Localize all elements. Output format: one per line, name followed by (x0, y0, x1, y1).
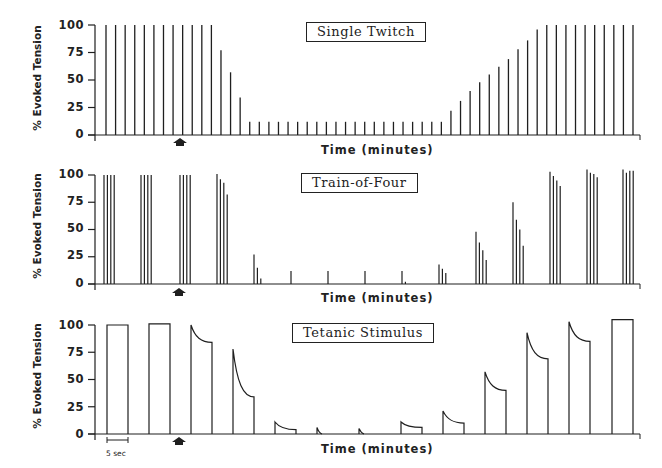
panel-title: Tetanic Stimulus (292, 323, 434, 343)
panel-title: Train-of-Four (301, 173, 418, 193)
x-axis-label: Time (minutes) (321, 442, 434, 456)
x-axis-label: Time (minutes) (321, 291, 434, 305)
drug-administration-arrow-icon (172, 288, 186, 296)
x-axis-label: Time (minutes) (321, 143, 434, 157)
tetanus-trace (612, 320, 633, 434)
tetanus-trace (485, 372, 506, 434)
tetanus-trace (107, 325, 128, 434)
panel-train-of-four: % Evoked Tension 100 75 50 25 0 Train-of… (0, 160, 662, 310)
tetanus-trace (191, 325, 212, 434)
tetanus-trace (401, 422, 422, 434)
tetanus-trace (233, 349, 254, 434)
tetanus-trace (443, 411, 464, 434)
panel-title: Single Twitch (306, 22, 426, 42)
panel-single-twitch: % Evoked Tension 100 75 50 25 0 Single T… (0, 0, 662, 160)
tetanus-trace (527, 333, 548, 434)
scale-bar-label: 5 sec (106, 449, 126, 458)
tetanus-trace (275, 422, 296, 434)
tetanus-trace (359, 429, 364, 434)
panel-tetanic-stimulus: % Evoked Tension 100 75 50 25 0 Tetanic … (0, 310, 662, 468)
drug-administration-arrow-icon (173, 138, 187, 146)
tetanus-trace (149, 324, 170, 434)
tetanus-trace (569, 322, 590, 434)
drug-administration-arrow-icon (172, 437, 186, 445)
tetanus-trace (317, 427, 322, 434)
